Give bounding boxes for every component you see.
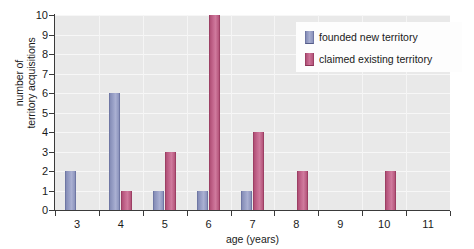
x-gridline xyxy=(274,15,275,210)
x-tick-label: 11 xyxy=(413,218,443,230)
chart-legend: founded new territory claimed existing t… xyxy=(296,22,462,72)
y-tick-mark xyxy=(49,35,54,36)
x-tick-label: 9 xyxy=(325,218,355,230)
y-tick-label: 1 xyxy=(28,185,48,196)
y-tick-mark xyxy=(49,132,54,133)
x-tick-mark xyxy=(231,211,232,216)
y-tick-label: 7 xyxy=(28,68,48,79)
x-gridline xyxy=(187,15,188,210)
y-gridline xyxy=(55,74,450,75)
x-tick-mark xyxy=(187,211,188,216)
legend-label-founded: founded new territory xyxy=(319,31,418,43)
x-axis-title: age (years) xyxy=(55,233,450,245)
y-tick-mark xyxy=(49,15,54,16)
y-tick-mark xyxy=(49,171,54,172)
y-gridline xyxy=(55,15,450,16)
legend-swatch-claimed-icon xyxy=(305,53,314,66)
x-tick-label: 5 xyxy=(150,218,180,230)
x-tick-label: 7 xyxy=(238,218,268,230)
bar-chart: number of territory acquisitions 0123456… xyxy=(0,0,474,249)
y-tick-mark xyxy=(49,152,54,153)
x-tick-mark xyxy=(143,211,144,216)
bar-claimed-age-6 xyxy=(209,15,220,210)
y-tick-mark xyxy=(49,54,54,55)
x-tick-mark xyxy=(99,211,100,216)
y-tick-label: 9 xyxy=(28,29,48,40)
y-tick-label: 0 xyxy=(28,205,48,216)
y-tick-mark xyxy=(49,74,54,75)
x-gridline xyxy=(231,15,232,210)
y-tick-label: 8 xyxy=(28,49,48,60)
x-tick-mark xyxy=(362,211,363,216)
y-tick-label: 4 xyxy=(28,127,48,138)
x-tick-label: 8 xyxy=(281,218,311,230)
x-tick-mark xyxy=(55,211,56,216)
y-tick-label: 6 xyxy=(28,88,48,99)
y-tick-mark xyxy=(49,113,54,114)
y-tick-label: 10 xyxy=(28,10,48,21)
y-axis-title-line-1: number of xyxy=(13,3,25,163)
legend-label-claimed: claimed existing territory xyxy=(319,53,432,65)
bar-claimed-age-7 xyxy=(253,132,264,210)
x-tick-label: 6 xyxy=(194,218,224,230)
bar-founded-age-7 xyxy=(241,191,252,211)
x-gridline xyxy=(99,15,100,210)
x-tick-mark xyxy=(450,211,451,216)
y-tick-label: 2 xyxy=(28,166,48,177)
x-tick-mark xyxy=(274,211,275,216)
x-tick-label: 10 xyxy=(369,218,399,230)
x-tick-label: 3 xyxy=(62,218,92,230)
bar-founded-age-6 xyxy=(197,191,208,211)
x-tick-mark xyxy=(318,211,319,216)
bar-claimed-age-8 xyxy=(297,171,308,210)
legend-item-claimed-existing-territory: claimed existing territory xyxy=(305,50,432,68)
y-tick-label: 5 xyxy=(28,107,48,118)
y-tick-mark xyxy=(49,93,54,94)
y-tick-mark xyxy=(49,191,54,192)
x-tick-mark xyxy=(406,211,407,216)
x-tick-label: 4 xyxy=(106,218,136,230)
bar-founded-age-4 xyxy=(109,93,120,210)
bar-founded-age-5 xyxy=(153,191,164,211)
y-tick-mark xyxy=(49,210,54,211)
y-axis-tick-labels: 012345678910 xyxy=(28,15,48,210)
bar-claimed-age-10 xyxy=(385,171,396,210)
bar-claimed-age-5 xyxy=(165,152,176,211)
legend-item-founded-new-territory: founded new territory xyxy=(305,28,418,46)
x-gridline xyxy=(143,15,144,210)
y-tick-label: 3 xyxy=(28,146,48,157)
bar-claimed-age-4 xyxy=(121,191,132,211)
x-axis-line xyxy=(54,210,450,211)
legend-swatch-founded-icon xyxy=(305,31,314,44)
bar-founded-age-3 xyxy=(65,171,76,210)
